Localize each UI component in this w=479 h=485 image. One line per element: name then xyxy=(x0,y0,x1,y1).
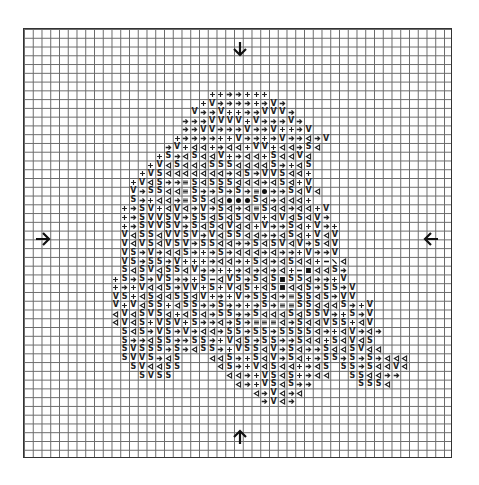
dot-symbol-icon xyxy=(243,196,252,205)
triangle-left-symbol-icon xyxy=(147,362,156,371)
plus-symbol-icon xyxy=(217,134,226,143)
arrow-right-symbol-icon xyxy=(225,187,234,196)
v-symbol-icon: V xyxy=(252,362,261,371)
s-symbol-icon: S xyxy=(190,152,199,161)
plus-symbol-icon xyxy=(182,143,191,152)
arrow-right-symbol-icon xyxy=(313,345,322,354)
plus-symbol-icon xyxy=(252,283,261,292)
s-symbol-icon: S xyxy=(295,275,304,284)
v-symbol-icon: V xyxy=(260,380,269,389)
triangle-left-symbol-icon xyxy=(269,248,278,257)
s-symbol-icon: S xyxy=(147,187,156,196)
v-symbol-icon: V xyxy=(217,117,226,126)
dot-symbol-icon xyxy=(260,187,269,196)
v-symbol-icon: V xyxy=(190,231,199,240)
arrow-right-symbol-icon xyxy=(374,354,383,363)
s-symbol-icon: S xyxy=(287,275,296,284)
s-symbol-icon: S xyxy=(260,327,269,336)
s-symbol-icon: S xyxy=(295,301,304,310)
arrow-right-symbol-icon xyxy=(129,222,138,231)
triangle-left-symbol-icon xyxy=(173,248,182,257)
triangle-left-symbol-icon xyxy=(199,161,208,170)
arrow-right-symbol-icon xyxy=(234,205,243,214)
plus-symbol-icon xyxy=(147,319,156,328)
triangle-left-symbol-icon xyxy=(260,283,269,292)
plus-symbol-icon xyxy=(182,257,191,266)
plus-symbol-icon xyxy=(295,248,304,257)
v-symbol-icon: V xyxy=(182,283,191,292)
triangle-left-symbol-icon xyxy=(313,143,322,152)
s-symbol-icon: S xyxy=(225,231,234,240)
plus-symbol-icon xyxy=(208,143,217,152)
v-symbol-icon: V xyxy=(234,134,243,143)
triangle-left-symbol-icon xyxy=(164,161,173,170)
s-symbol-icon: S xyxy=(269,240,278,249)
v-symbol-icon: V xyxy=(304,126,313,135)
arrow-right-symbol-icon xyxy=(208,266,217,275)
plus-symbol-icon xyxy=(208,292,217,301)
s-symbol-icon: S xyxy=(330,266,339,275)
triangle-left-symbol-icon xyxy=(129,327,138,336)
center-marker-top-arrow-down-icon xyxy=(231,40,249,58)
s-symbol-icon: S xyxy=(217,248,226,257)
v-symbol-icon: V xyxy=(269,126,278,135)
s-symbol-icon: S xyxy=(304,161,313,170)
v-symbol-icon: V xyxy=(147,248,156,257)
s-symbol-icon: S xyxy=(164,327,173,336)
triangle-left-symbol-icon xyxy=(295,345,304,354)
s-symbol-icon: S xyxy=(120,354,129,363)
s-symbol-icon: S xyxy=(322,283,331,292)
v-symbol-icon: V xyxy=(138,283,147,292)
triangle-left-symbol-icon xyxy=(234,380,243,389)
s-symbol-icon: S xyxy=(365,336,374,345)
triangle-left-symbol-icon xyxy=(182,310,191,319)
v-symbol-icon: V xyxy=(260,169,269,178)
triangle-left-symbol-icon xyxy=(208,327,217,336)
triangle-left-symbol-icon xyxy=(278,310,287,319)
triangle-left-symbol-icon xyxy=(199,178,208,187)
arrow-right-symbol-icon xyxy=(225,126,234,135)
arrow-right-symbol-icon xyxy=(155,248,164,257)
s-symbol-icon: S xyxy=(138,327,147,336)
triangle-left-symbol-icon xyxy=(217,362,226,371)
s-symbol-icon: S xyxy=(208,178,217,187)
s-symbol-icon: S xyxy=(164,336,173,345)
arrow-right-symbol-icon xyxy=(322,327,331,336)
arrow-right-symbol-icon xyxy=(295,126,304,135)
s-symbol-icon: S xyxy=(287,257,296,266)
v-symbol-icon: V xyxy=(138,178,147,187)
triangle-left-symbol-icon xyxy=(234,169,243,178)
triangle-left-symbol-icon xyxy=(155,231,164,240)
s-symbol-icon: S xyxy=(339,301,348,310)
triangle-left-symbol-icon xyxy=(112,319,121,328)
v-symbol-icon: V xyxy=(225,283,234,292)
v-symbol-icon: V xyxy=(278,213,287,222)
v-symbol-icon: V xyxy=(155,327,164,336)
arrow-right-symbol-icon xyxy=(173,283,182,292)
s-symbol-icon: S xyxy=(374,380,383,389)
s-symbol-icon: S xyxy=(330,336,339,345)
triangle-left-symbol-icon xyxy=(287,283,296,292)
arrow-right-symbol-icon xyxy=(225,99,234,108)
v-symbol-icon: V xyxy=(155,275,164,284)
arrow-right-symbol-icon xyxy=(269,301,278,310)
arrow-right-symbol-icon xyxy=(138,248,147,257)
s-symbol-icon: S xyxy=(252,257,261,266)
arrow-right-symbol-icon xyxy=(217,126,226,135)
triangle-left-symbol-icon xyxy=(112,310,121,319)
triangle-left-symbol-icon xyxy=(287,362,296,371)
v-symbol-icon: V xyxy=(147,169,156,178)
square-symbol-icon xyxy=(304,266,313,275)
v-symbol-icon: V xyxy=(147,205,156,214)
triangle-left-symbol-icon xyxy=(365,327,374,336)
arrow-right-symbol-icon xyxy=(278,345,287,354)
s-symbol-icon: S xyxy=(287,380,296,389)
v-symbol-icon: V xyxy=(173,205,182,214)
s-symbol-icon: S xyxy=(199,275,208,284)
v-symbol-icon: V xyxy=(155,222,164,231)
plus-symbol-icon xyxy=(252,90,261,99)
plus-symbol-icon xyxy=(357,301,366,310)
s-symbol-icon: S xyxy=(190,196,199,205)
arrow-right-symbol-icon xyxy=(278,117,287,126)
arrow-right-symbol-icon xyxy=(278,222,287,231)
